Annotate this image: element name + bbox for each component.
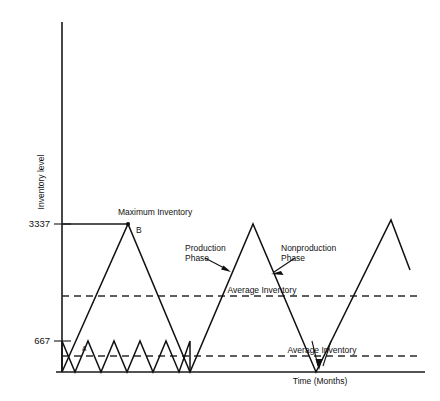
point-label-b: B: [136, 225, 142, 235]
y-axis-title: Inventory level: [36, 154, 46, 209]
y-tick-label-667: 667: [34, 335, 50, 346]
peak-marker-b: [126, 222, 130, 226]
annotation-maximum-inventory: Maximum Inventory: [118, 207, 193, 217]
annotation-production-phase: ProductionPhase: [185, 243, 226, 263]
annotation-average-inventory-lower: Average Inventory: [288, 345, 358, 355]
x-axis-title: Time (Months): [293, 376, 348, 386]
annotation-production-phase-line1: Production: [185, 243, 226, 253]
annotation-average-inventory-upper: Average Inventory: [228, 285, 298, 295]
arrow-head-production-phase: [221, 266, 231, 273]
chart-canvas: Inventory level Time (Months) 3337 667 M…: [0, 0, 440, 401]
y-tick-label-3337: 3337: [29, 218, 50, 229]
inventory-sawtooth-chart: Inventory level Time (Months) 3337 667 M…: [0, 0, 440, 401]
annotation-nonproduction-phase: NonproductionPhase: [281, 243, 337, 263]
arrow-head-average-inventory-lower: [316, 359, 323, 370]
point-label-a: A: [82, 345, 87, 352]
